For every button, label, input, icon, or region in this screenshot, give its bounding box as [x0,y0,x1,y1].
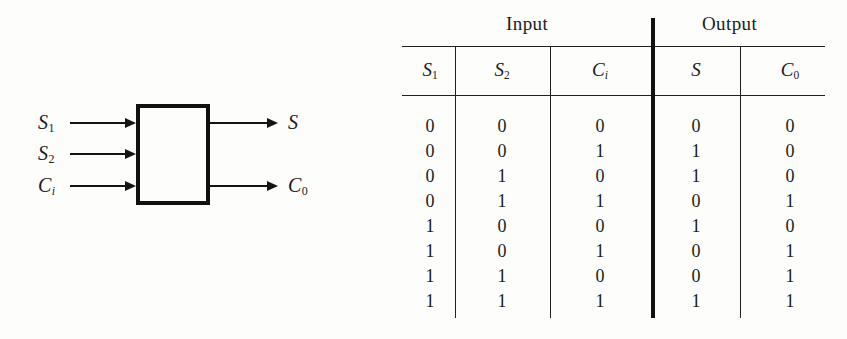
cell-r1-S: 0 [676,117,716,135]
colsep-input-output [651,18,655,318]
column-header-ci-base: C [592,59,605,80]
cell-r5-S: 1 [676,217,716,235]
cell-r2-S1: 0 [410,142,450,160]
column-header-s-base: S [691,59,701,80]
cell-r4-C0: 1 [770,192,810,210]
column-header-s1: S1 [410,60,450,79]
adder-block [136,104,210,205]
cell-r8-S1: 1 [410,292,450,310]
cell-r1-S1: 0 [410,117,450,135]
input-wire-s2 [70,153,126,155]
output-label-c0-base: C [288,174,301,196]
output-label-s-base: S [288,111,298,133]
output-label-s: S [288,112,298,132]
cell-r6-S2: 0 [482,242,522,260]
input-arrow-s1 [125,118,136,128]
input-wire-ci [70,185,126,187]
column-header-c0-sub: 0 [793,69,799,81]
cell-r6-Ci: 1 [580,242,620,260]
input-label-s1-sub: 1 [49,121,55,135]
column-header-ci: Ci [580,60,620,79]
column-header-s2-base: S [494,59,504,80]
input-label-s2-sub: 2 [49,152,55,166]
cell-r4-Ci: 1 [580,192,620,210]
input-label-s1-base: S [38,111,48,133]
block-diagram: S1 S2 Ci S C0 [0,0,400,339]
input-wire-s1 [70,122,126,124]
cell-r3-Ci: 0 [580,167,620,185]
output-arrow-c0 [267,181,278,191]
cell-r6-C0: 1 [770,242,810,260]
cell-r2-Ci: 1 [580,142,620,160]
cell-r3-S: 1 [676,167,716,185]
cell-r1-S2: 0 [482,117,522,135]
input-label-s2-base: S [38,142,48,164]
group-header-output: Output [702,14,757,33]
input-label-s1: S1 [38,112,54,132]
cell-r7-S1: 1 [410,267,450,285]
cell-r5-S1: 1 [410,217,450,235]
column-header-s: S [676,60,716,79]
cell-r5-Ci: 0 [580,217,620,235]
colsep-1 [455,46,456,318]
cell-r7-S: 0 [676,267,716,285]
cell-r4-S: 0 [676,192,716,210]
column-header-s2-sub: 2 [504,69,510,81]
group-header-input: Input [506,14,548,33]
cell-r4-S1: 0 [410,192,450,210]
colsep-4 [740,46,741,318]
cell-r6-S: 0 [676,242,716,260]
cell-r3-S2: 1 [482,167,522,185]
input-label-ci-sub: i [52,184,55,198]
column-header-s1-base: S [422,59,432,80]
rule-top [402,46,825,47]
cell-r1-Ci: 0 [580,117,620,135]
input-label-s2: S2 [38,143,54,163]
cell-r5-S2: 0 [482,217,522,235]
cell-r7-Ci: 0 [580,267,620,285]
cell-r5-C0: 0 [770,217,810,235]
rule-under-colheads [402,95,825,96]
cell-r8-S2: 1 [482,292,522,310]
cell-r8-Ci: 1 [580,292,620,310]
cell-r6-S1: 1 [410,242,450,260]
column-header-s1-sub: 1 [432,69,438,81]
truth-table: Input Output S1 S2 Ci S C0 0000000110010… [402,0,847,339]
cell-r2-S: 1 [676,142,716,160]
cell-r4-S2: 1 [482,192,522,210]
cell-r8-C0: 1 [770,292,810,310]
cell-r7-C0: 1 [770,267,810,285]
output-label-c0-sub: 0 [302,184,308,198]
cell-r2-S2: 0 [482,142,522,160]
input-arrow-ci [125,181,136,191]
cell-r2-C0: 0 [770,142,810,160]
output-wire-s [210,122,268,124]
figure-page: S1 S2 Ci S C0 Input Output [0,0,847,339]
input-label-ci-base: C [38,174,51,196]
cell-r3-C0: 0 [770,167,810,185]
cell-r7-S2: 1 [482,267,522,285]
colsep-2 [550,46,551,318]
cell-r1-C0: 0 [770,117,810,135]
column-header-c0-base: C [781,59,794,80]
input-arrow-s2 [125,149,136,159]
output-wire-c0 [210,185,268,187]
column-header-ci-sub: i [605,69,608,81]
output-label-c0: C0 [288,175,307,195]
cell-r3-S1: 0 [410,167,450,185]
output-arrow-s [267,118,278,128]
column-header-c0: C0 [770,60,810,79]
cell-r8-S: 1 [676,292,716,310]
column-header-s2: S2 [482,60,522,79]
input-label-ci: Ci [38,175,55,195]
